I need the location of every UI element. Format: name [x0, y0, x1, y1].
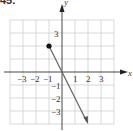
x-tick-label: −2 [30, 74, 40, 84]
x-tick-label: −3 [17, 74, 27, 84]
y-tick-label: 3 [54, 29, 59, 39]
y-tick-label: −2 [51, 94, 61, 104]
start-point [46, 43, 51, 48]
y-tick-label: −3 [51, 107, 61, 117]
x-tick-label: 2 [86, 74, 91, 84]
x-axis-arrow-icon [120, 70, 128, 75]
y-tick-label: −1 [51, 81, 61, 91]
y-axis-label: y [63, 0, 68, 7]
coordinate-plane: x y −3 −2 −1 1 2 3 3 −1 −2 −3 [0, 0, 133, 131]
axes [4, 8, 124, 130]
x-tick-label: 1 [73, 74, 78, 84]
x-tick-label: 3 [99, 74, 104, 84]
x-axis-label: x [127, 68, 132, 78]
